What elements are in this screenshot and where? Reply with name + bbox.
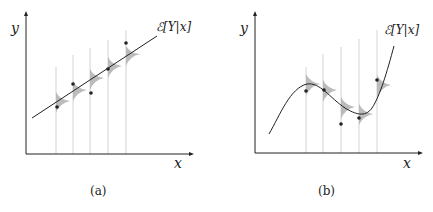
density-shapes <box>306 74 391 125</box>
panel-a <box>26 13 192 154</box>
caption-b: (b) <box>318 184 335 198</box>
x-axis-label-b: x <box>403 155 411 171</box>
x-axis-label-a: x <box>174 155 182 171</box>
curve-label-b: ℰ[Y|x] <box>384 23 419 37</box>
figure-canvas <box>0 0 433 212</box>
y-axis-label-b: y <box>240 20 248 36</box>
caption-a: (a) <box>90 184 107 198</box>
regression-line <box>32 36 157 118</box>
y-axis-label-a: y <box>11 20 19 36</box>
guide-lines <box>306 30 377 153</box>
density-shapes <box>56 46 140 113</box>
curve-label-a: ℰ[Y|x] <box>156 20 191 34</box>
